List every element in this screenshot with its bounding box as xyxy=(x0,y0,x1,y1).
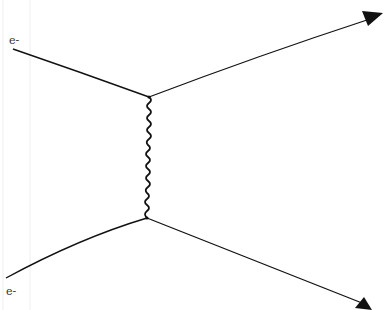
vertex-bottom xyxy=(145,216,148,219)
outgoing-bottom-electron-line xyxy=(147,218,362,303)
outgoing-top-electron-line xyxy=(149,19,370,97)
incoming-top-electron-line xyxy=(13,49,149,97)
feynman-diagram: e- e- xyxy=(0,0,386,310)
arrowhead-bottom-icon xyxy=(355,297,372,310)
photon-propagator-wavy-line xyxy=(145,97,151,218)
label-incoming-bottom: e- xyxy=(6,285,17,298)
arrowhead-top-icon xyxy=(362,11,383,26)
vertex-top xyxy=(147,95,150,98)
label-incoming-top: e- xyxy=(9,34,20,47)
incoming-bottom-electron-line xyxy=(6,218,147,278)
